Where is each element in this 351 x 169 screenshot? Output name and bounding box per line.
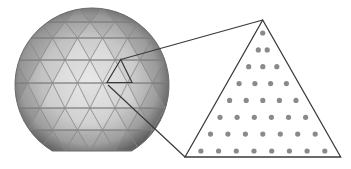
sample-point	[252, 81, 257, 86]
sample-point	[277, 98, 282, 103]
sample-point	[260, 64, 265, 69]
geodesic-sphere-figure	[0, 0, 351, 169]
sample-point	[269, 115, 274, 120]
magnified-facet	[185, 20, 341, 157]
sample-point	[305, 148, 310, 153]
sample-point	[244, 98, 249, 103]
sample-point	[260, 132, 265, 137]
sample-point	[313, 132, 318, 137]
sample-point	[268, 81, 273, 86]
sample-point	[217, 115, 222, 120]
sample-point	[295, 132, 300, 137]
sample-point	[322, 148, 327, 153]
sample-point	[293, 98, 298, 103]
sample-point	[278, 132, 283, 137]
sample-point	[269, 148, 274, 153]
sample-point	[252, 115, 257, 120]
sample-point	[208, 132, 213, 137]
sample-point	[227, 98, 232, 103]
sample-point	[235, 115, 240, 120]
sample-point	[286, 115, 291, 120]
sample-point	[260, 98, 265, 103]
sample-point	[198, 148, 203, 153]
sample-point	[265, 47, 270, 52]
sphere-facet-shading	[0, 8, 228, 151]
sample-point	[243, 132, 248, 137]
sample-point	[234, 148, 239, 153]
sample-point	[256, 47, 261, 52]
diagram-canvas	[0, 0, 351, 169]
sample-point	[260, 30, 265, 35]
sample-point	[284, 81, 289, 86]
sample-point	[237, 81, 242, 86]
sample-point	[287, 148, 292, 153]
sample-point	[251, 148, 256, 153]
sample-point	[274, 64, 279, 69]
geodesic-sphere	[0, 8, 228, 151]
sample-point	[225, 132, 230, 137]
sample-point	[246, 64, 251, 69]
sample-point	[216, 148, 221, 153]
sample-point	[303, 115, 308, 120]
